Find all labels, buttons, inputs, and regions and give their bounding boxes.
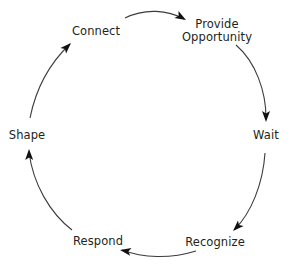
node-label-connect: Connect — [72, 25, 120, 38]
edge-recognize-to-respond — [122, 250, 196, 257]
node-label-shape: Shape — [9, 129, 46, 142]
edge-respond-to-shape — [29, 152, 72, 230]
cycle-diagram: Connect Provide Opportunity Wait Recogni… — [0, 0, 296, 269]
node-label-shape-line1: Shape — [9, 128, 46, 142]
node-label-recognize: Recognize — [185, 236, 245, 249]
edge-wait-to-recognize — [235, 153, 265, 229]
node-label-provide-opportunity: Provide Opportunity — [182, 18, 252, 44]
arrowhead-group — [25, 11, 270, 256]
arrowhead-into-shape — [25, 149, 33, 160]
node-label-recognize-line1: Recognize — [185, 235, 245, 249]
edge-shape-to-connect — [30, 44, 70, 118]
node-label-wait-line1: Wait — [253, 128, 279, 142]
node-label-respond-line1: Respond — [73, 234, 123, 248]
arrowhead-into-respond — [119, 246, 131, 256]
node-label-respond: Respond — [73, 235, 123, 248]
node-label-provide-opportunity-line2: Opportunity — [182, 31, 252, 44]
node-label-provide-opportunity-line1: Provide — [195, 17, 238, 31]
node-label-wait: Wait — [253, 129, 279, 142]
node-label-connect-line1: Connect — [72, 24, 120, 38]
edge-provide-opportunity-to-wait — [236, 45, 266, 118]
arrowhead-into-recognize — [230, 220, 243, 233]
